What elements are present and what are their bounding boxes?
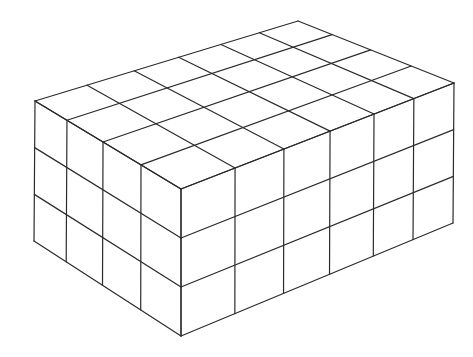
top-grid-line bbox=[87, 85, 235, 168]
right-face bbox=[181, 83, 454, 336]
top-edge bbox=[298, 21, 454, 83]
left-edge bbox=[34, 101, 35, 241]
right-edge bbox=[181, 223, 453, 336]
right-grid-line bbox=[330, 131, 331, 274]
right-edge bbox=[453, 83, 454, 223]
top-grid-line bbox=[221, 44, 374, 114]
top-grid-line bbox=[179, 57, 330, 131]
left-grid-line bbox=[35, 148, 181, 238]
left-face bbox=[34, 101, 181, 336]
cube-stack-diagram bbox=[0, 0, 473, 357]
left-edge bbox=[34, 241, 181, 336]
top-grid-line bbox=[259, 33, 414, 99]
right-grid-line bbox=[413, 99, 414, 240]
left-grid-line bbox=[103, 142, 104, 285]
right-grid-line bbox=[373, 114, 374, 256]
left-edge bbox=[35, 101, 181, 189]
left-grid-line bbox=[34, 194, 181, 287]
top-grid-line bbox=[134, 71, 284, 149]
left-grid-line bbox=[66, 120, 67, 262]
